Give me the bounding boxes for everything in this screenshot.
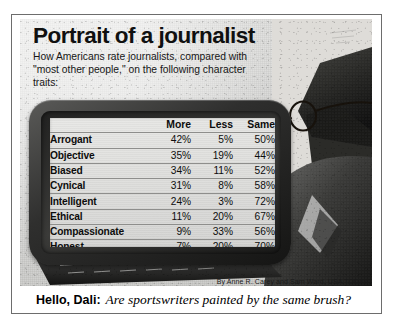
value-same: 56%: [233, 225, 275, 240]
trait-label: Cynical: [50, 179, 149, 194]
frame-border-top: [11, 14, 382, 15]
trait-label: Objective: [50, 148, 149, 163]
trait-label: Compassionate: [50, 225, 149, 240]
table-row: Compassionate9%33%56%: [50, 225, 275, 240]
value-more: 9%: [149, 225, 191, 240]
photo-texture-marks: [330, 30, 356, 43]
column-header-more: More: [149, 118, 191, 133]
value-less: 20%: [191, 209, 233, 224]
value-less: 33%: [191, 225, 233, 240]
trait-label: Honest: [50, 240, 149, 247]
head-lower-silhouette: [306, 105, 372, 169]
trait-label: Arrogant: [50, 133, 149, 148]
value-more: 34%: [149, 163, 191, 178]
trait-label: Ethical: [50, 209, 149, 224]
value-more: 42%: [149, 133, 191, 148]
trait-label: Intelligent: [50, 194, 149, 209]
head-silhouette: [298, 47, 372, 147]
monitor-screen: More Less Same Arrogant42%5%50%Objective…: [50, 118, 275, 247]
value-less: 3%: [191, 194, 233, 209]
value-less: 11%: [191, 163, 233, 178]
monitor-bezel: More Less Same Arrogant42%5%50%Objective…: [29, 100, 291, 265]
subtitle: How Americans rate journalists, compared…: [33, 51, 271, 89]
table-row: Arrogant42%5%50%: [50, 133, 275, 148]
table-row: Objective35%19%44%: [50, 148, 275, 163]
headline-block: Portrait of a journalist How Americans r…: [33, 24, 285, 90]
value-more: 31%: [149, 179, 191, 194]
caption: Hello, Dali:Are sportswriters painted by…: [36, 292, 351, 308]
value-same: 50%: [233, 133, 275, 148]
value-less: 8%: [191, 179, 233, 194]
column-header-same: Same: [233, 118, 275, 133]
value-same: 52%: [233, 163, 275, 178]
value-same: 67%: [233, 209, 275, 224]
usa-today-graphic-panel: Portrait of a journalist How Americans r…: [20, 19, 372, 286]
value-more: 7%: [149, 240, 191, 247]
value-less: 19%: [191, 148, 233, 163]
frame-border-left: [11, 14, 12, 314]
frame-border-bottom: [11, 313, 382, 314]
table-row: Honest7%20%70%: [50, 240, 275, 247]
table-body: Arrogant42%5%50%Objective35%19%44%Biased…: [50, 133, 275, 247]
eyeglasses-temple: [315, 102, 372, 111]
column-header-less: Less: [191, 118, 233, 133]
keyboard-keys-row2: [68, 268, 214, 273]
value-same: 72%: [233, 194, 275, 209]
table-row: Intelligent24%3%72%: [50, 194, 275, 209]
page-title: Portrait of a journalist: [33, 24, 285, 47]
value-more: 35%: [149, 148, 191, 163]
table-row: Biased34%11%52%: [50, 163, 275, 178]
monitor-bezel-inner: More Less Same Arrogant42%5%50%Objective…: [41, 111, 281, 254]
newspaper-clipping: Portrait of a journalist How Americans r…: [0, 0, 394, 321]
eyeglasses-lens: [290, 102, 316, 131]
table-row: Ethical11%20%67%: [50, 209, 275, 224]
value-more: 24%: [149, 194, 191, 209]
traits-table: More Less Same Arrogant42%5%50%Objective…: [50, 118, 275, 247]
value-same: 70%: [233, 240, 275, 247]
shirt-collar: [298, 195, 338, 253]
table-head: More Less Same: [50, 118, 275, 133]
frame-border-right: [381, 14, 382, 314]
trait-label: Biased: [50, 163, 149, 178]
table-row: Cynical31%8%58%: [50, 179, 275, 194]
value-less: 5%: [191, 133, 233, 148]
graphic-byline: By Anne R. Carey and Sam Ward, USA TODAY: [217, 278, 368, 285]
caption-text: Are sportswriters painted by the same br…: [106, 292, 352, 307]
table-header-row: More Less Same: [50, 118, 275, 133]
value-same: 44%: [233, 148, 275, 163]
necktie: [312, 209, 342, 259]
caption-lead: Hello, Dali:: [36, 293, 101, 307]
value-same: 58%: [233, 179, 275, 194]
value-less: 20%: [191, 240, 233, 247]
value-more: 11%: [149, 209, 191, 224]
column-header-trait: [50, 118, 149, 133]
